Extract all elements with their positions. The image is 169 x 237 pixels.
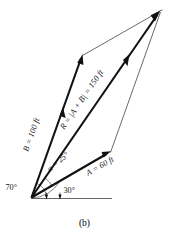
label-angle-alpha: α = 25° (45, 150, 71, 174)
figure-caption-text: (b) (79, 218, 90, 228)
vector-b-shaft (32, 59, 82, 198)
label-angle-70: 70° (6, 183, 17, 192)
construction-line-b-to-apex (83, 12, 160, 56)
label-angle-30: 30° (64, 186, 75, 195)
figure-caption: (b) (0, 212, 169, 230)
construction-line-a-to-apex (111, 12, 161, 153)
vector-parallelogram-diagram: B = 100 ft R = |A + B| = 150 ft A = 60 f… (0, 0, 169, 237)
label-vector-b: B = 100 ft (21, 116, 41, 153)
figure-root: B = 100 ft R = |A + B| = 150 ft A = 60 f… (0, 0, 169, 237)
vector-b-arrowhead (77, 54, 83, 65)
